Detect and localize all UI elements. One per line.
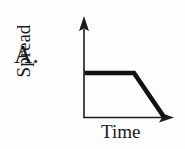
- y-axis-label: Spread: [14, 11, 33, 91]
- figure-panel-a: A. Spread Time: [0, 0, 185, 149]
- x-axis-label: Time: [101, 122, 140, 141]
- spread-series-line: [85, 73, 165, 117]
- y-axis-arrowhead-icon: [79, 16, 89, 31]
